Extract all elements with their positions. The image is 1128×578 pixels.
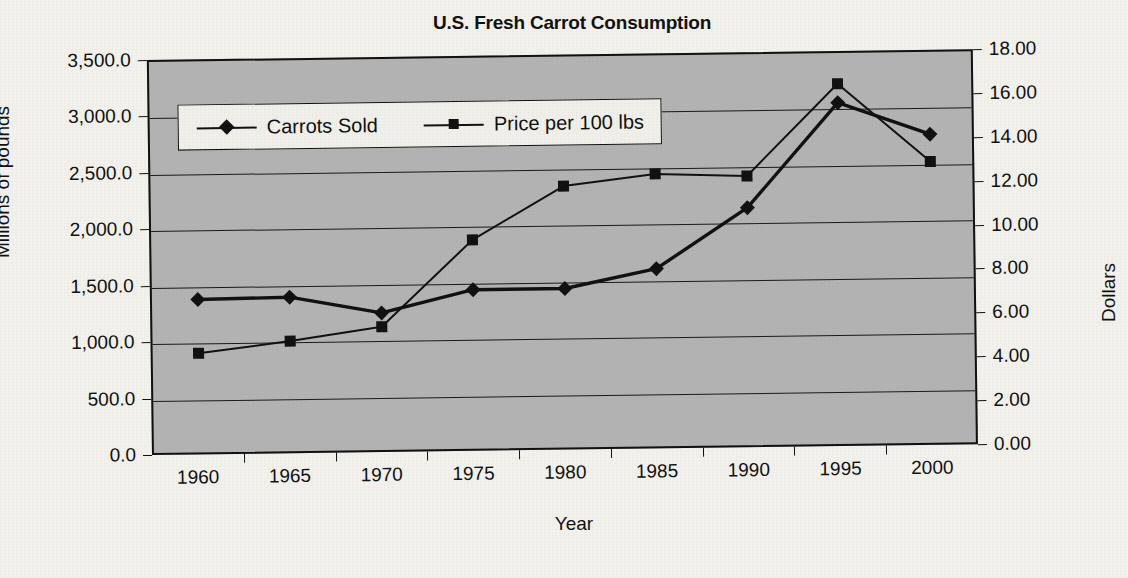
data-point-marker bbox=[650, 168, 661, 179]
secondary-y-axis-tick bbox=[975, 225, 984, 226]
data-point-marker bbox=[285, 335, 296, 346]
x-axis-tick-label: 1995 bbox=[819, 458, 862, 481]
x-axis-tick bbox=[886, 445, 887, 454]
y-axis-tick bbox=[142, 399, 151, 400]
secondary-y-axis-tick-label: 16.00 bbox=[989, 81, 1037, 104]
diamond-marker-icon bbox=[197, 118, 257, 137]
secondary-y-axis-tick bbox=[973, 93, 982, 94]
y-axis-tick bbox=[138, 60, 147, 61]
square-marker-icon bbox=[424, 115, 484, 134]
x-axis-tick-label: 1975 bbox=[452, 463, 495, 486]
right-axis-tick-labels: 18.0016.0014.0012.0010.008.006.004.002.0… bbox=[0, 0, 1122, 2]
x-axis-tick bbox=[703, 448, 704, 457]
legend-item-carrots-sold: Carrots Sold bbox=[197, 114, 378, 139]
secondary-y-axis-title: Dollars bbox=[1098, 263, 1120, 322]
y-axis-tick-label: 1,000.0 bbox=[0, 331, 135, 355]
secondary-y-axis-tick-label: 2.00 bbox=[993, 389, 1030, 411]
y-axis-tick bbox=[139, 173, 148, 174]
y-axis-tick-label: 2,000.0 bbox=[0, 219, 133, 243]
x-axis-tick-label: 2000 bbox=[911, 457, 954, 480]
data-point-marker bbox=[925, 156, 936, 167]
x-axis-tick-label: 1985 bbox=[636, 460, 679, 483]
data-point-marker bbox=[374, 305, 389, 320]
secondary-y-axis-tick bbox=[974, 137, 983, 138]
bottom-axis-ticks bbox=[0, 0, 1122, 2]
y-axis-tick-label: 3,000.0 bbox=[0, 106, 132, 130]
left-axis-tick-labels: 3,500.03,000.02,500.02,000.01,500.01,000… bbox=[0, 0, 1122, 2]
y-axis-tick-label: 2,500.0 bbox=[0, 162, 132, 186]
secondary-y-axis-tick bbox=[977, 356, 986, 357]
y-axis-tick bbox=[143, 455, 152, 456]
secondary-y-axis-tick-label: 0.00 bbox=[994, 432, 1031, 454]
data-point-marker bbox=[558, 180, 569, 191]
y-axis-tick-label: 500.0 bbox=[0, 388, 135, 412]
x-axis-tick bbox=[336, 453, 337, 462]
x-axis-tick-labels: 196019651970197519801985199019952000 bbox=[0, 0, 1122, 2]
plot-skew-wrapper: 3,500.03,000.02,500.02,000.01,500.01,000… bbox=[0, 0, 1128, 578]
secondary-y-axis-tick-label: 8.00 bbox=[991, 257, 1028, 279]
chart-figure: U.S. Fresh Carrot Consumption 3,500.03,0… bbox=[0, 0, 1128, 578]
data-point-marker bbox=[741, 170, 752, 181]
secondary-y-axis-tick-label: 18.00 bbox=[989, 37, 1037, 60]
secondary-y-axis-tick bbox=[974, 181, 983, 182]
data-point-marker bbox=[465, 282, 480, 297]
secondary-y-axis-tick bbox=[973, 49, 982, 50]
x-axis-tick-label: 1960 bbox=[177, 466, 220, 489]
y-axis-tick bbox=[142, 342, 151, 343]
legend-label-price-per-100-lbs: Price per 100 lbs bbox=[494, 110, 644, 135]
data-point-marker bbox=[832, 78, 843, 89]
data-point-marker bbox=[922, 127, 937, 142]
secondary-y-axis-tick bbox=[977, 400, 986, 401]
y-axis-tick-label: 1,500.0 bbox=[0, 275, 134, 299]
secondary-y-axis-tick bbox=[978, 444, 987, 445]
x-axis-tick bbox=[611, 449, 612, 458]
x-axis-tick bbox=[427, 451, 428, 460]
y-axis-tick bbox=[140, 229, 149, 230]
x-axis-title: Year bbox=[10, 513, 1128, 535]
legend-label-carrots-sold: Carrots Sold bbox=[267, 114, 378, 138]
secondary-y-axis-tick-label: 10.00 bbox=[991, 213, 1039, 236]
x-axis-tick bbox=[519, 450, 520, 459]
secondary-y-axis-tick-label: 12.00 bbox=[990, 169, 1038, 192]
data-point-marker bbox=[282, 290, 297, 305]
x-axis-tick-label: 1980 bbox=[544, 461, 587, 484]
x-axis-tick bbox=[244, 454, 245, 463]
x-axis-tick-label: 1970 bbox=[360, 464, 403, 487]
y-axis-tick-label: 3,500.0 bbox=[0, 49, 131, 73]
secondary-y-axis-tick-label: 6.00 bbox=[992, 301, 1029, 323]
right-axis-ticks bbox=[0, 0, 1122, 2]
data-point-marker bbox=[193, 348, 204, 359]
legend-item-price-per-100-lbs: Price per 100 lbs bbox=[424, 110, 644, 136]
data-point-marker bbox=[190, 292, 205, 307]
secondary-y-axis-tick bbox=[976, 312, 985, 313]
secondary-y-axis-tick-label: 4.00 bbox=[993, 345, 1030, 367]
x-axis-tick bbox=[794, 447, 795, 456]
data-point-marker bbox=[557, 281, 572, 296]
chart-legend: Carrots Sold Price per 100 lbs bbox=[177, 98, 662, 150]
data-point-marker bbox=[376, 321, 387, 332]
data-point-marker bbox=[467, 234, 478, 245]
left-axis-ticks bbox=[0, 0, 1122, 2]
x-axis-tick-label: 1990 bbox=[728, 459, 771, 482]
secondary-y-axis-tick bbox=[976, 269, 985, 270]
y-axis-title: Millions of pounds bbox=[0, 106, 14, 258]
x-axis-tick-label: 1965 bbox=[269, 465, 312, 488]
secondary-y-axis-tick-label: 14.00 bbox=[990, 125, 1038, 148]
y-axis-tick bbox=[139, 116, 148, 117]
y-axis-tick-label: 0.0 bbox=[0, 444, 136, 468]
y-axis-tick bbox=[141, 286, 150, 287]
